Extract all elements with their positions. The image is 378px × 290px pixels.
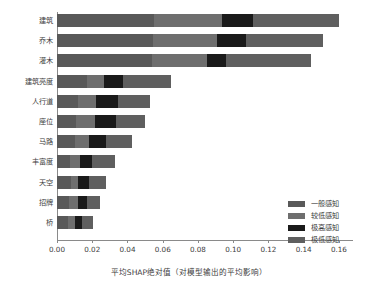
bar-segment <box>75 216 83 229</box>
legend-label: 极高感知 <box>311 222 339 233</box>
x-axis-tick-label: 0.06 <box>155 245 171 255</box>
legend-item[interactable]: 较低感知 <box>288 210 376 221</box>
bar-row <box>57 176 106 189</box>
bar-segment <box>57 75 87 88</box>
legend-item[interactable]: 极低感知 <box>288 234 376 245</box>
legend-swatch-icon <box>288 213 305 219</box>
bar-segment <box>152 54 207 67</box>
legend-item[interactable]: 一般感知 <box>288 198 376 209</box>
x-axis-tick-label: 0.08 <box>190 245 206 255</box>
bar-segment <box>57 176 71 189</box>
x-axis-tick-mark <box>268 240 269 243</box>
bar-segment <box>87 75 105 88</box>
x-axis-tick-label: 0.00 <box>49 245 65 255</box>
x-axis-tick-label: 0.10 <box>225 245 241 255</box>
bar-segment <box>153 34 217 47</box>
bar-segment <box>104 75 123 88</box>
bar-segment <box>57 216 68 229</box>
bar-segment <box>57 115 76 128</box>
bar-row <box>57 196 100 209</box>
bar-segment <box>87 196 100 209</box>
legend-label: 一般感知 <box>311 198 339 209</box>
bar-segment <box>80 155 92 168</box>
bar-segment <box>253 14 339 27</box>
bar-segment <box>78 95 96 108</box>
y-axis-tick-label: 灌木 <box>1 54 53 67</box>
y-axis-tick-label: 马路 <box>1 135 53 148</box>
bar-row <box>57 135 132 148</box>
bar-segment <box>57 155 70 168</box>
bar-segment <box>57 54 152 67</box>
x-axis-tick-mark <box>92 240 93 243</box>
y-axis-tick-label: 招牌 <box>1 196 53 209</box>
bar-row <box>57 54 311 67</box>
bar-segment <box>75 135 89 148</box>
x-axis-tick-mark <box>57 240 58 243</box>
bar-segment <box>57 196 69 209</box>
bar-row <box>57 75 171 88</box>
shap-feature-importance-chart: 建筑乔木灌木建筑亮度人行道座位马路丰富度天空招牌桥 0.000.020.040.… <box>0 0 378 290</box>
bar-segment <box>207 54 226 67</box>
legend: 一般感知较低感知极高感知极低感知 <box>288 198 376 246</box>
bar-segment <box>92 155 115 168</box>
bar-segment <box>78 196 87 209</box>
bar-row <box>57 14 339 27</box>
y-axis-tick-label: 建筑 <box>1 14 53 27</box>
y-axis-tick-label: 人行道 <box>1 95 53 108</box>
x-axis-tick-mark <box>198 240 199 243</box>
x-axis-title: 平均SHAP绝对值（对模型输出的平均影响） <box>0 266 378 277</box>
bar-segment <box>222 14 253 27</box>
x-axis-tick-label: 0.04 <box>119 245 135 255</box>
y-axis-tick-labels: 建筑乔木灌木建筑亮度人行道座位马路丰富度天空招牌桥 <box>0 14 53 238</box>
bar-row <box>57 95 150 108</box>
y-axis-tick-label: 乔木 <box>1 34 53 47</box>
bar-segment <box>78 176 88 189</box>
y-axis-tick-label: 天空 <box>1 176 53 189</box>
bar-row <box>57 115 145 128</box>
legend-swatch-icon <box>288 201 305 207</box>
x-axis-tick-mark <box>233 240 234 243</box>
bar-segment <box>57 34 153 47</box>
bar-segment <box>217 34 246 47</box>
bar-segment <box>57 135 75 148</box>
bar-segment <box>246 34 323 47</box>
bar-segment <box>76 115 95 128</box>
legend-label: 较低感知 <box>311 210 339 221</box>
bar-segment <box>68 216 75 229</box>
bar-segment <box>118 95 150 108</box>
legend-label: 极低感知 <box>311 234 339 245</box>
x-axis-tick-mark <box>163 240 164 243</box>
bar-row <box>57 216 93 229</box>
y-axis-tick-label: 座位 <box>1 115 53 128</box>
x-axis-tick-mark <box>127 240 128 243</box>
x-axis-tick-label: 0.12 <box>260 245 276 255</box>
bar-segment <box>57 95 78 108</box>
bar-segment <box>116 115 146 128</box>
bar-segment <box>69 196 78 209</box>
bar-segment <box>70 155 80 168</box>
x-axis-tick-label: 0.02 <box>84 245 100 255</box>
y-axis-tick-label: 桥 <box>1 216 53 229</box>
bar-segment <box>57 14 154 27</box>
bar-row <box>57 155 115 168</box>
legend-item[interactable]: 极高感知 <box>288 222 376 233</box>
bar-segment <box>123 75 171 88</box>
x-axis-tick-label: 0.14 <box>296 245 312 255</box>
bar-segment <box>89 176 106 189</box>
bar-segment <box>82 216 93 229</box>
legend-swatch-icon <box>288 225 305 231</box>
bar-segment <box>89 135 107 148</box>
bar-segment <box>106 135 131 148</box>
x-axis-tick-label: 0.16 <box>331 245 347 255</box>
bar-segment <box>154 14 222 27</box>
bar-segment <box>95 115 116 128</box>
legend-swatch-icon <box>288 237 305 243</box>
bar-segment <box>71 176 78 189</box>
bar-row <box>57 34 323 47</box>
y-axis-tick-label: 建筑亮度 <box>1 75 53 88</box>
bar-segment <box>226 54 311 67</box>
y-axis-tick-label: 丰富度 <box>1 155 53 168</box>
bar-segment <box>96 95 118 108</box>
